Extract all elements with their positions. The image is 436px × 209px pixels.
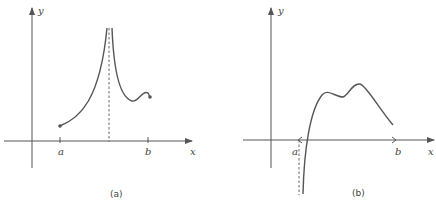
panel-a: y x a b (a): [4, 5, 196, 199]
caption-b: (b): [352, 188, 365, 198]
tick-b-label: b: [145, 146, 151, 157]
x-label-a: x: [190, 146, 196, 157]
panel-b: y x a b (b): [243, 5, 434, 198]
tick-a-label-b: a: [292, 146, 298, 157]
curve-right-branch: [112, 28, 150, 101]
y-label-a: y: [37, 5, 44, 16]
x-label-b: x: [428, 146, 434, 157]
curve-b: [303, 84, 393, 194]
curve-left-branch: [60, 28, 107, 126]
figure-canvas: y x a b (a) y x a b (b): [0, 0, 436, 209]
caption-a: (a): [110, 189, 123, 199]
tick-b-label-b: b: [395, 146, 401, 157]
endpoint-a: [58, 124, 62, 128]
tick-a-label: a: [58, 146, 64, 157]
y-label-b: y: [277, 5, 284, 16]
endpoint-b: [148, 95, 152, 99]
